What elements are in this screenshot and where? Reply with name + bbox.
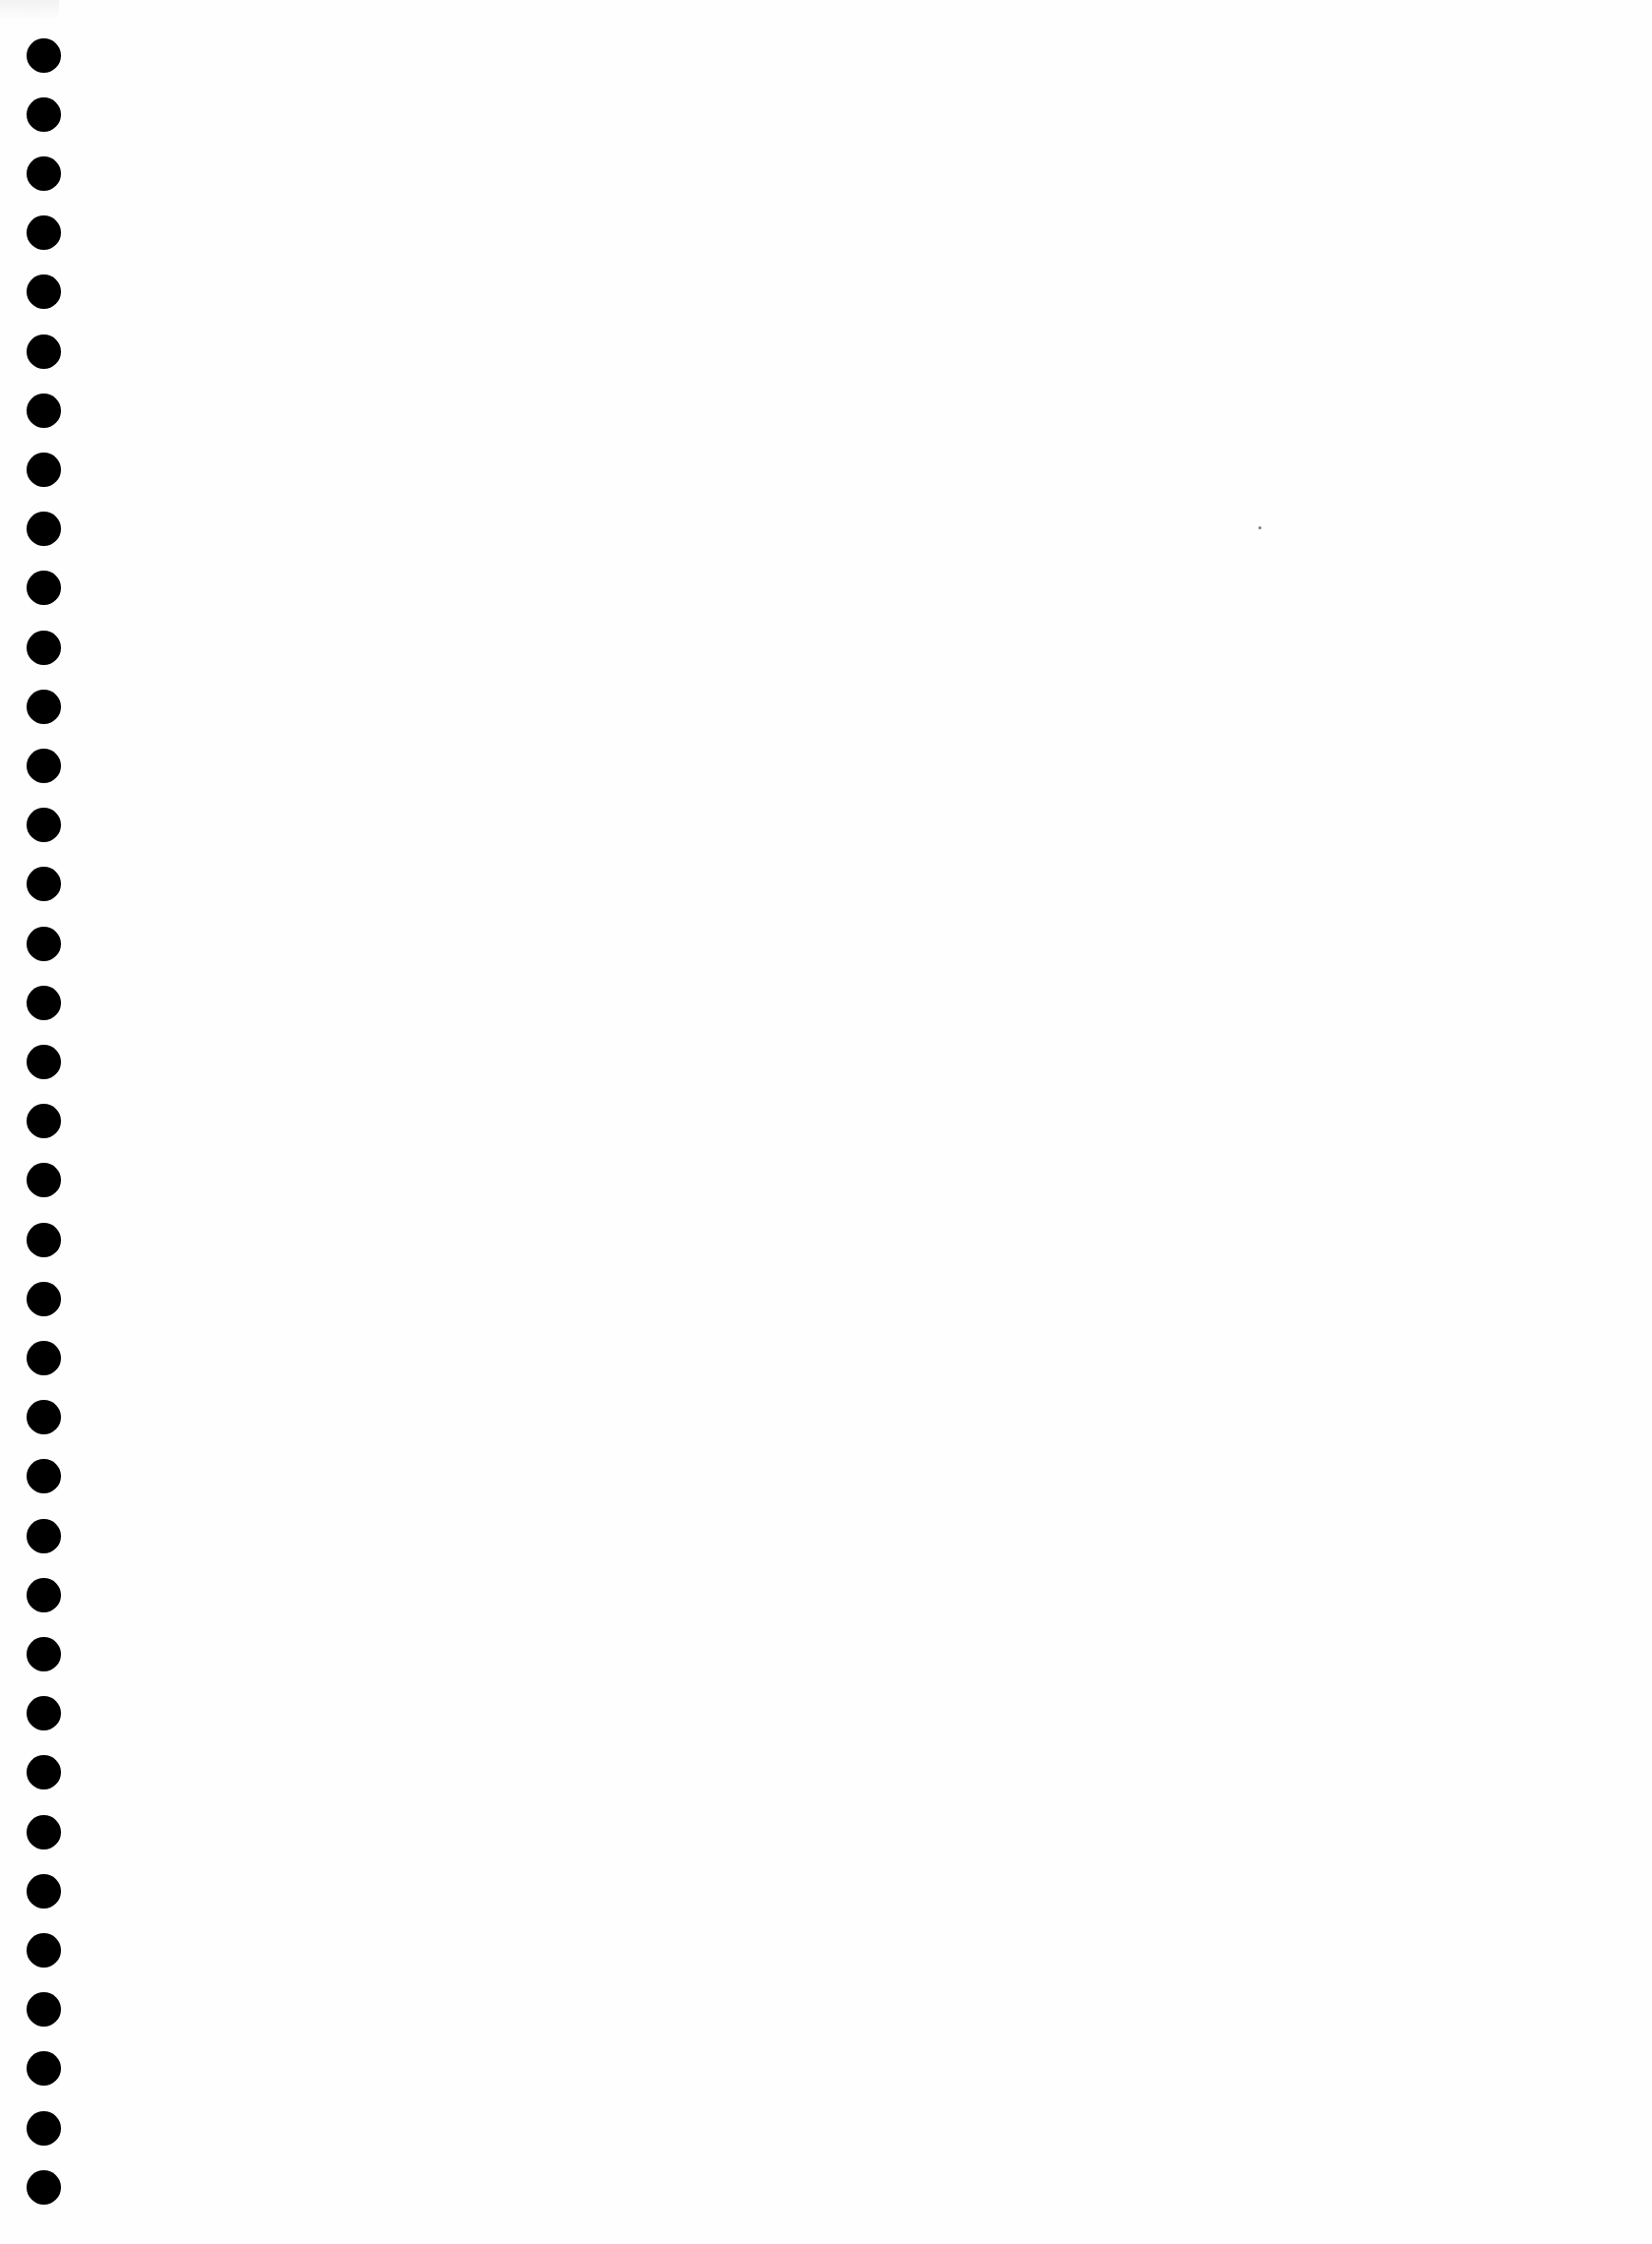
binding-hole [27,1400,61,1434]
binding-hole [27,749,61,783]
binding-hole [27,38,61,73]
binding-hole [27,986,61,1020]
binding-hole [27,1815,61,1850]
binding-hole [27,97,61,132]
binding-hole [27,1163,61,1197]
binding-hole [27,1282,61,1316]
binding-holes-column [0,0,89,2244]
binding-hole [27,274,61,309]
binding-hole [27,1637,61,1671]
binding-hole [27,1578,61,1612]
binding-hole [27,156,61,191]
binding-hole [27,927,61,961]
binding-hole [27,2170,61,2205]
binding-hole [27,1104,61,1138]
binding-hole [27,1696,61,1730]
binding-hole [27,2111,61,2146]
binding-hole [27,1874,61,1909]
blank-page [0,0,1652,2244]
binding-hole [27,394,61,428]
binding-hole [27,2051,61,2086]
binding-hole [27,631,61,665]
binding-hole [27,867,61,901]
dust-speck [1258,526,1261,529]
binding-hole [27,1223,61,1257]
binding-hole [27,808,61,842]
binding-hole [27,1992,61,2027]
binding-hole [27,1045,61,1079]
binding-hole [27,1933,61,1968]
binding-hole [27,512,61,546]
binding-hole [27,690,61,724]
binding-hole [27,1341,61,1375]
binding-hole [27,334,61,369]
binding-hole [27,1519,61,1553]
binding-hole [27,571,61,605]
binding-hole [27,453,61,487]
binding-hole [27,1459,61,1493]
binding-hole [27,215,61,250]
binding-hole [27,1755,61,1789]
